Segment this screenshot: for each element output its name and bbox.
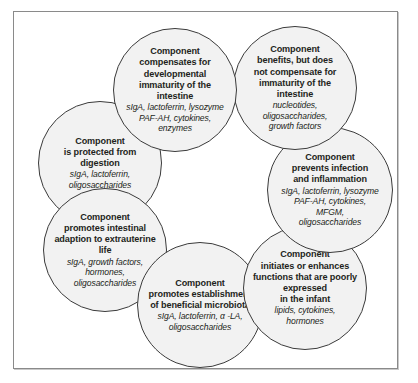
node-title: Component prevents infection and inflamm… [292, 152, 369, 186]
node-compensates-for-immaturity[interactable]: Component compensates for developmental … [113, 28, 237, 152]
node-component-list: nucleotides, oligosaccharides, growth fa… [263, 100, 328, 132]
node-title: Component is protected from digestion [64, 136, 137, 170]
node-component-list: lipids, cytokines, hormones [275, 305, 336, 326]
node-text-block: Component initiates or enhances function… [230, 249, 380, 326]
node-title: Component initiates or enhances function… [253, 249, 357, 305]
node-title: Component compensates for developmental … [139, 46, 211, 102]
node-component-list: sIgA, lactoferrin, lysozyme PAF-AH, cyto… [126, 102, 224, 134]
node-text-block: Component prevents infection and inflamm… [254, 152, 406, 228]
node-benefits-not-compensates[interactable]: Component benefits, but does not compens… [233, 26, 357, 150]
node-text-block: Component compensates for developmental … [100, 46, 250, 134]
figure-root: Component compensates for developmental … [0, 0, 418, 383]
circle-diagram: Component compensates for developmental … [0, 0, 418, 383]
node-title: Component promotes intestinal adaption t… [54, 212, 155, 257]
node-title: Component benefits, but does not compens… [254, 44, 337, 100]
node-component-list: sIgA, lactoferrin, lysozyme PAF-AH, cyto… [281, 186, 379, 228]
